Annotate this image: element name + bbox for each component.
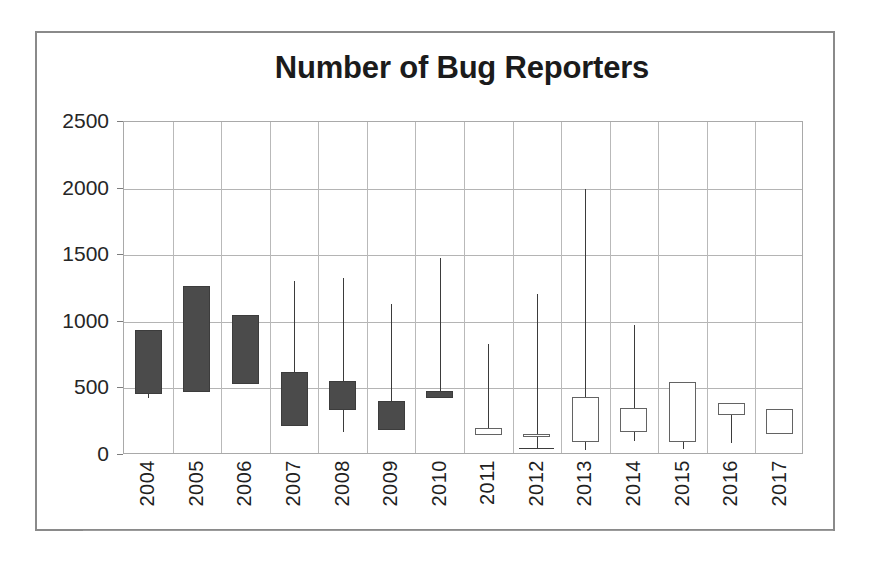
whisker-upper (294, 281, 295, 373)
y-axis-tick-label: 2000 (0, 176, 109, 200)
box-quartile-range (329, 381, 356, 410)
gridline-vertical (318, 122, 319, 453)
y-axis-tick-label: 1500 (0, 242, 109, 266)
box-quartile-range (620, 408, 647, 431)
box-quartile-range (281, 372, 308, 425)
whisker-lower (731, 415, 732, 443)
gridline-vertical (367, 122, 368, 453)
axis-baseline (83, 530, 833, 531)
gridline-vertical (464, 122, 465, 453)
x-axis-tick-label: 2006 (233, 460, 256, 507)
page-title: Number of Bug Reporters (37, 50, 833, 86)
x-axis-tick-label: 2007 (282, 460, 305, 507)
gridline-vertical (415, 122, 416, 453)
whisker-lower (148, 394, 149, 398)
gridline-vertical (755, 122, 756, 453)
whisker-lower (683, 442, 684, 449)
chart-figure: Number of Bug Reporters 0500100015002000… (35, 31, 835, 531)
whisker-upper (488, 344, 489, 428)
x-axis-tick-label: 2012 (525, 460, 548, 507)
box-quartile-range (426, 391, 453, 398)
whisker-upper (537, 294, 538, 435)
x-axis-tick-label: 2015 (671, 460, 694, 507)
gridline-vertical (221, 122, 222, 453)
x-axis-tick-label: 2017 (768, 460, 791, 507)
box-quartile-range (232, 315, 259, 384)
whisker-upper (634, 325, 635, 408)
box-quartile-range (572, 397, 599, 442)
gridline-vertical (561, 122, 562, 453)
plot-area (123, 121, 803, 454)
box-quartile-range (523, 434, 550, 437)
gridline-vertical (173, 122, 174, 453)
y-axis-tick-label: 1000 (0, 309, 109, 333)
whisker-upper (391, 304, 392, 401)
whisker-cap-lower (519, 448, 554, 449)
x-axis-tick-label: 2009 (379, 460, 402, 507)
whisker-lower (537, 436, 538, 448)
box-quartile-range (378, 401, 405, 430)
gridline-vertical (513, 122, 514, 453)
box-quartile-range (135, 330, 162, 394)
y-axis-tick-label: 0 (0, 442, 109, 466)
box-quartile-range (669, 382, 696, 443)
gridline-vertical (707, 122, 708, 453)
whisker-upper (440, 258, 441, 391)
box-quartile-range (475, 428, 502, 435)
x-axis-tick-label: 2010 (428, 460, 451, 507)
gridline-vertical (270, 122, 271, 453)
gridline-horizontal (124, 322, 802, 323)
x-axis-tick-label: 2005 (185, 460, 208, 507)
y-axis-tick-label: 500 (0, 375, 109, 399)
y-axis-tick-mark (117, 454, 123, 455)
box-quartile-range (718, 403, 745, 415)
x-axis-tick-label: 2008 (331, 460, 354, 507)
x-axis-tick-label: 2011 (476, 460, 499, 505)
box-quartile-range (766, 409, 793, 434)
y-axis-tick-label: 2500 (0, 109, 109, 133)
whisker-lower (585, 442, 586, 450)
box-quartile-range (183, 286, 210, 393)
whisker-lower (634, 432, 635, 441)
whisker-upper (585, 189, 586, 397)
x-axis-tick-label: 2016 (719, 460, 742, 507)
gridline-vertical (658, 122, 659, 453)
gridline-horizontal (124, 388, 802, 389)
gridline-horizontal (124, 255, 802, 256)
gridline-horizontal (124, 189, 802, 190)
x-axis-tick-label: 2014 (622, 460, 645, 507)
whisker-lower (343, 410, 344, 432)
x-axis-tick-label: 2013 (573, 460, 596, 507)
gridline-vertical (610, 122, 611, 453)
whisker-upper (343, 278, 344, 381)
x-axis-tick-label: 2004 (136, 460, 159, 507)
